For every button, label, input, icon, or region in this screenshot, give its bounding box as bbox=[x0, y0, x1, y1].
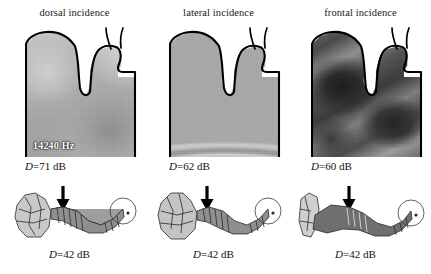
directivity-label-bottom-dorsal: D=42 dB bbox=[49, 248, 90, 260]
directivity-label-top-dorsal: D=71 dB bbox=[25, 160, 66, 172]
figure-root: dorsal incidence 14240 Hz D=71 dB bbox=[0, 0, 431, 274]
heatmap-silhouette bbox=[311, 26, 423, 157]
directivity-value: D=60 dB bbox=[311, 160, 352, 172]
field-texture-overlay bbox=[25, 26, 137, 157]
insect-head-antenna-icon bbox=[11, 185, 141, 247]
directivity-value: D=71 dB bbox=[25, 160, 66, 172]
panel-heading-dorsal: dorsal incidence bbox=[3, 7, 146, 18]
heatmap-silhouette bbox=[169, 26, 281, 157]
heatmap-clip bbox=[169, 26, 281, 157]
insect-head-antenna-icon bbox=[155, 185, 285, 247]
field-texture-overlay bbox=[311, 26, 423, 157]
directivity-value: D=42 dB bbox=[193, 248, 234, 260]
directivity-label-bottom-frontal: D=42 dB bbox=[335, 248, 376, 260]
heatmap-panel-dorsal: 14240 Hz bbox=[25, 26, 137, 157]
directivity-label-top-frontal: D=60 dB bbox=[311, 160, 352, 172]
antenna-drawing-frontal bbox=[297, 185, 427, 247]
heatmap-panel-lateral bbox=[169, 26, 281, 157]
insect-head-antenna-icon bbox=[297, 185, 427, 247]
directivity-value: D=62 dB bbox=[169, 160, 210, 172]
heatmap-clip bbox=[311, 26, 423, 157]
panel-column-lateral: lateral incidence D=62 dB bbox=[147, 0, 290, 274]
heatmap-silhouette bbox=[25, 26, 137, 157]
directivity-label-top-lateral: D=62 dB bbox=[169, 160, 210, 172]
panel-column-frontal: frontal incidence D=60 dB bbox=[289, 0, 431, 274]
panel-heading-frontal: frontal incidence bbox=[289, 7, 431, 18]
panel-heading-lateral: lateral incidence bbox=[147, 7, 290, 18]
field-texture-overlay bbox=[169, 26, 281, 157]
antenna-drawing-dorsal bbox=[11, 185, 141, 247]
antenna-drawing-lateral bbox=[155, 185, 285, 247]
heatmap-panel-frontal bbox=[311, 26, 423, 157]
frequency-label: 14240 Hz bbox=[33, 140, 74, 151]
heatmap-clip bbox=[25, 26, 137, 157]
directivity-value: D=42 dB bbox=[335, 248, 376, 260]
directivity-value: D=42 dB bbox=[49, 248, 90, 260]
panel-column-dorsal: dorsal incidence 14240 Hz D=71 dB bbox=[3, 0, 146, 274]
directivity-label-bottom-lateral: D=42 dB bbox=[193, 248, 234, 260]
